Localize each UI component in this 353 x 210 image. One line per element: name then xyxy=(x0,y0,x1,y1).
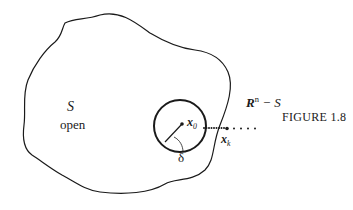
radius-line xyxy=(165,124,182,142)
set-s-description: open xyxy=(60,118,85,131)
sequence-point-label: xk xyxy=(221,133,230,148)
complement-label-rest: − S xyxy=(259,95,281,110)
figure-caption: FIGURE 1.8 xyxy=(282,111,346,123)
center-point-label-sub: 0 xyxy=(193,122,197,131)
center-point-label: x0 xyxy=(187,116,197,131)
sequence-dots-dense xyxy=(203,127,225,129)
radius-label: δ xyxy=(178,151,184,164)
figure-canvas: S open Rn − S FIGURE 1.8 x0 δ xk xyxy=(0,0,353,210)
sequence-point-xk-dot xyxy=(225,127,229,131)
sequence-point-label-sub: k xyxy=(227,139,230,148)
sequence-dots-sparse xyxy=(233,128,256,130)
diagram-drawing xyxy=(0,0,353,210)
set-s-label: S xyxy=(67,100,74,114)
complement-label-base: R xyxy=(246,95,255,110)
complement-label: Rn − S xyxy=(246,95,281,109)
set-s-boundary xyxy=(23,14,230,193)
